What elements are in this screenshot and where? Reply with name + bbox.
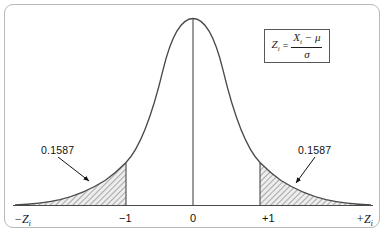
left-annotation-leader-line xyxy=(58,157,89,181)
axis-label-minus-one: −1 xyxy=(119,212,132,224)
formula-fraction: Xi − μ σ xyxy=(291,32,322,60)
formula-denominator: σ xyxy=(304,48,309,60)
formula-equals-sign: = xyxy=(283,41,289,52)
axis-label-plus-one: +1 xyxy=(262,212,275,224)
formula-numerator: Xi − μ xyxy=(291,32,322,47)
left-tail-probability-label: 0.1587 xyxy=(41,144,74,156)
formula-lhs: Zi xyxy=(272,39,280,53)
right-tail-probability-label: 0.1587 xyxy=(298,144,331,156)
axis-label-zero: 0 xyxy=(190,212,196,224)
z-score-formula-box: Zi = Xi − μ σ xyxy=(264,29,330,63)
right-annotation-leader-line xyxy=(296,157,315,183)
left-tail-shaded-region xyxy=(15,163,126,206)
right-tail-shaded-region xyxy=(260,163,371,206)
axis-label-plus-z: +Zi xyxy=(356,212,373,228)
axis-label-minus-z: −Zi xyxy=(14,212,31,228)
normal-distribution-figure: Zi = Xi − μ σ 0.1587 0.1587 −Zi −1 0 +1 … xyxy=(0,0,385,233)
